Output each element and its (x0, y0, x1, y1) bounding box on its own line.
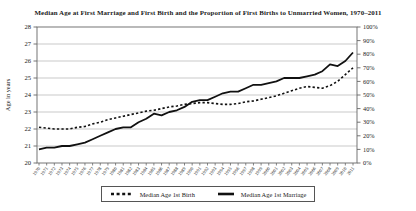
solid-line-sample-icon (217, 192, 235, 196)
dual-axis-line-chart: 2021222324252627280%10%20%30%40%50%60%70… (0, 0, 416, 211)
legend-item-first-birth: Median Age 1st Birth (110, 191, 195, 198)
right-axis-tick-label: 30% (363, 118, 375, 125)
legend-label-first-birth: Median Age 1st Birth (140, 191, 195, 198)
right-axis-tick-label: 20% (363, 132, 375, 139)
series-line-median-age-1st-marriage (39, 53, 353, 150)
left-axis-tick-label: 22 (24, 125, 31, 132)
y-axis-title: Age in years (4, 78, 11, 111)
right-axis-tick-label: 10% (363, 146, 375, 153)
right-axis-tick-label: 90% (363, 37, 375, 44)
legend: Median Age 1st Birth Median Age 1st Marr… (101, 186, 315, 202)
right-axis-tick-label: 50% (363, 91, 375, 98)
left-axis-tick-label: 23 (24, 108, 31, 115)
dotted-line-sample-icon (110, 192, 134, 196)
right-axis-tick-label: 0% (363, 159, 372, 166)
legend-label-first-marriage: Median Age 1st Marriage (241, 191, 307, 198)
left-axis-tick-label: 24 (24, 91, 31, 98)
left-axis-tick-label: 21 (24, 142, 31, 149)
left-axis-tick-label: 26 (24, 57, 31, 64)
left-axis-tick-label: 27 (24, 40, 31, 47)
left-axis-tick-label: 25 (24, 74, 31, 81)
legend-item-first-marriage: Median Age 1st Marriage (217, 191, 307, 198)
right-axis-tick-label: 100% (363, 23, 378, 30)
left-axis-tick-label: 20 (24, 159, 31, 166)
right-axis-tick-label: 40% (363, 105, 375, 112)
right-axis-tick-label: 70% (363, 64, 375, 71)
x-axis-tick-label: 2011 (346, 165, 356, 176)
right-axis-tick-label: 60% (363, 78, 375, 85)
right-axis-tick-label: 80% (363, 50, 375, 57)
left-axis-tick-label: 28 (24, 23, 31, 30)
